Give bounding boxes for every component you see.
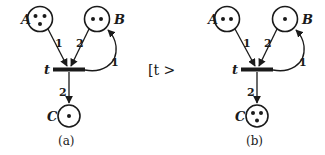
token: [99, 17, 103, 21]
panel-b: A B 1 2 1 t 2 C (b): [206, 7, 313, 149]
token: [38, 22, 42, 26]
token: [283, 17, 287, 21]
panel-caption: (a): [58, 134, 75, 148]
place-c: C: [235, 105, 268, 127]
place-label-a: A: [206, 12, 218, 27]
firing-notation: [t >: [148, 62, 175, 78]
token: [34, 14, 38, 18]
place-a: A: [19, 7, 53, 32]
place-b: B: [85, 7, 126, 32]
panel-caption: (b): [246, 134, 263, 148]
arc-weight: 1: [55, 37, 63, 50]
arc-weight: 2: [264, 37, 272, 50]
place-label-b: B: [301, 12, 313, 27]
token: [43, 14, 47, 18]
place-label-c: C: [235, 109, 246, 124]
panel-a: A B 1 2 1 t 2 C (a): [19, 7, 125, 149]
arc-weight: 2: [76, 37, 84, 50]
place-label-c: C: [47, 109, 58, 124]
token: [91, 17, 95, 21]
token: [255, 119, 259, 123]
token: [251, 111, 255, 115]
place-c: C: [47, 105, 80, 127]
token: [259, 111, 263, 115]
transition-t: [53, 68, 85, 72]
transition-label: t: [44, 62, 50, 77]
place-a: A: [206, 7, 240, 32]
token: [229, 17, 233, 21]
arc-weight: 1: [243, 37, 251, 50]
arc-weight: 2: [59, 86, 67, 99]
firing-notation-text: [t >: [148, 62, 175, 78]
transition-label: t: [232, 62, 238, 77]
arc-weight: 2: [247, 86, 255, 99]
place-b: B: [273, 7, 314, 32]
petri-net-figure: A B 1 2 1 t 2 C (a) [t >: [0, 0, 325, 155]
place-label-b: B: [113, 12, 125, 27]
arc-weight: 1: [299, 56, 307, 69]
transition-t: [241, 68, 273, 72]
arc-weight: 1: [111, 56, 119, 69]
place-label-a: A: [19, 12, 31, 27]
token: [67, 114, 71, 118]
token: [221, 17, 225, 21]
